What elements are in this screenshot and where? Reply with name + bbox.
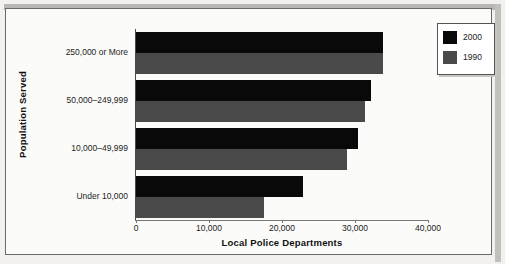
x-axis-title: Local Police Departments [135, 237, 429, 248]
bar-group [136, 176, 428, 218]
figure-shadow-right [495, 4, 501, 262]
legend-label: 2000 [463, 32, 482, 42]
bar-group [136, 128, 428, 170]
category-label: Under 10,000 [6, 191, 128, 201]
bar-1990-4 [136, 197, 264, 218]
chart-figure: 250,000 or More50,000–249,99910,000–49,9… [0, 0, 505, 264]
bar-1990-2 [136, 101, 365, 122]
bar-1990-3 [136, 149, 347, 170]
y-axis-title: Population Served [17, 55, 28, 175]
bar-1990-1 [136, 53, 383, 74]
bar-2000-1 [136, 32, 383, 53]
x-tick-label: 40,000 [415, 223, 441, 233]
bar-group [136, 32, 428, 74]
chart-panel: 250,000 or More50,000–249,99910,000–49,9… [5, 8, 492, 255]
x-tick-label: 30,000 [342, 223, 368, 233]
x-tick-label: 20,000 [269, 223, 295, 233]
bar-group [136, 80, 428, 122]
chart-legend: 20001990 [437, 23, 495, 75]
legend-swatch-2000 [443, 31, 457, 44]
legend-swatch-1990 [443, 51, 457, 64]
bar-2000-3 [136, 128, 358, 149]
legend-label: 1990 [463, 52, 482, 62]
bar-2000-4 [136, 176, 303, 197]
x-tick-label: 0 [134, 223, 139, 233]
x-tick-label: 10,000 [196, 223, 222, 233]
bar-2000-2 [136, 80, 371, 101]
